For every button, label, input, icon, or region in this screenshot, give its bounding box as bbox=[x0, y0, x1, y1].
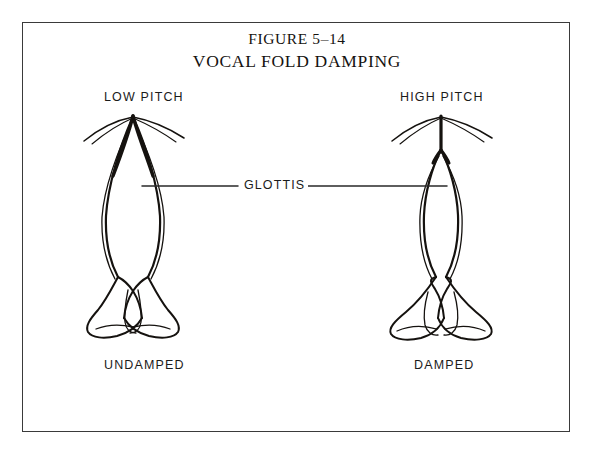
figure-title-block: FIGURE 5–14 VOCAL FOLD DAMPING bbox=[0, 30, 594, 72]
figure-root: FIGURE 5–14 VOCAL FOLD DAMPING bbox=[0, 0, 594, 454]
label-low-pitch: LOW PITCH bbox=[104, 90, 184, 104]
label-high-pitch: HIGH PITCH bbox=[400, 90, 484, 104]
label-undamped: UNDAMPED bbox=[104, 358, 185, 372]
page-title: VOCAL FOLD DAMPING bbox=[0, 51, 594, 72]
figure-number: FIGURE 5–14 bbox=[0, 30, 594, 49]
label-glottis: GLOTTIS bbox=[241, 178, 308, 192]
label-damped: DAMPED bbox=[414, 358, 474, 372]
